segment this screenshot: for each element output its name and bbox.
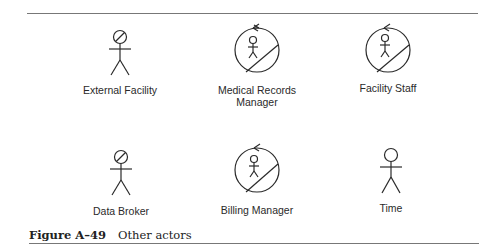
actor-label: Time: [341, 202, 441, 214]
figure-title: Other actors: [118, 228, 192, 242]
actor-label: External Facility: [70, 84, 170, 96]
actor-label-line-1: Medical Records: [197, 84, 317, 96]
actor-label-line-2: Manager: [197, 96, 317, 108]
top-rule: [27, 13, 478, 14]
actor-label: Facility Staff: [338, 82, 438, 94]
figure-caption: Figure A–49Other actors: [29, 228, 192, 242]
actor-label: Data Broker: [71, 205, 171, 217]
figure-number: Figure A–49: [29, 228, 106, 242]
actor-label: Billing Manager: [197, 204, 317, 216]
bottom-rule: [29, 243, 479, 244]
stick-figure-icon: [0, 0, 1, 1]
